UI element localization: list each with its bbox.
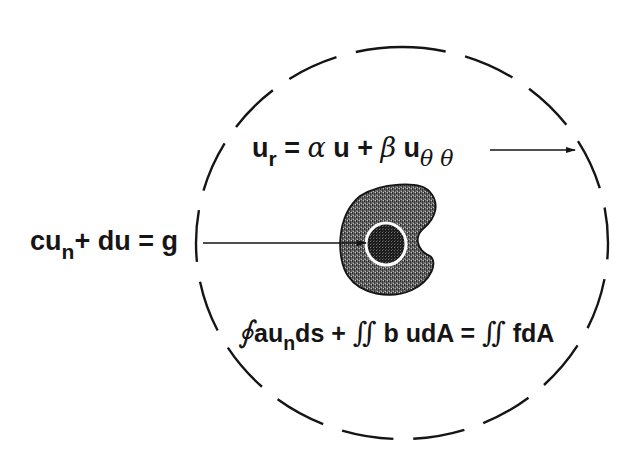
eq-au: au <box>254 319 283 347</box>
eq-u: u <box>252 133 269 163</box>
inner-inclusion <box>366 223 406 265</box>
eq-term1: u + <box>326 133 381 163</box>
contour-integral-icon: ∮ <box>238 314 254 349</box>
theta-theta-subscript: θ θ <box>420 146 453 171</box>
eq-rest: + du = g <box>74 226 178 256</box>
alpha-symbol: α <box>307 132 325 163</box>
eq-cu: cu <box>30 226 62 256</box>
robin-boundary-equation: ur = α u + β uθ θ <box>252 132 454 164</box>
eq-term2: u <box>396 133 420 163</box>
double-integral-icon: ∬ <box>353 316 377 349</box>
mixed-boundary-equation: cun+ du = g <box>30 226 178 257</box>
eq-sub-n2: n <box>283 332 295 354</box>
integral-constraint-equation: ∮aunds + ∬ b udA = ∬ fdA <box>238 314 554 349</box>
eq-budA: b udA = <box>377 319 482 347</box>
eq-sub-n: n <box>62 240 75 263</box>
eq-ds: ds + <box>295 319 353 347</box>
eq-sub-r: r <box>269 147 277 170</box>
double-integral-icon-2: ∬ <box>482 316 506 349</box>
beta-symbol: β <box>380 132 396 163</box>
eq-fdA: fdA <box>506 319 555 347</box>
eq-equals: = <box>277 133 308 163</box>
